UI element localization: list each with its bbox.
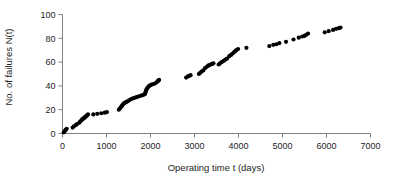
x-axis-tick-label: 0 bbox=[60, 141, 65, 151]
data-point bbox=[244, 46, 248, 50]
data-point bbox=[105, 110, 109, 114]
x-axis-tick-label: 7000 bbox=[360, 141, 380, 151]
data-series-cumulative-failures bbox=[62, 25, 343, 134]
x-axis-tick-label: 5000 bbox=[272, 141, 292, 151]
data-point bbox=[338, 25, 342, 29]
data-point bbox=[267, 44, 271, 48]
data-point bbox=[95, 112, 99, 116]
x-axis-tick-label: 3000 bbox=[184, 141, 204, 151]
data-point bbox=[323, 30, 327, 34]
x-axis-tick-label: 4000 bbox=[228, 141, 248, 151]
data-point bbox=[65, 127, 69, 131]
data-point bbox=[211, 61, 215, 65]
data-point bbox=[91, 112, 95, 116]
data-point bbox=[291, 37, 295, 41]
y-axis-label: No. of failures N(t) bbox=[2, 2, 16, 132]
data-point bbox=[327, 29, 331, 33]
x-axis-tick-label: 6000 bbox=[316, 141, 336, 151]
y-axis-tick-label: 80 bbox=[45, 34, 55, 44]
y-axis-tick-label: 60 bbox=[45, 57, 55, 67]
y-axis-label-text: No. of failures N(t) bbox=[2, 2, 16, 132]
data-point bbox=[284, 40, 288, 44]
data-point bbox=[157, 78, 161, 82]
data-point bbox=[236, 47, 240, 51]
data-point bbox=[277, 41, 281, 45]
y-axis-tick-label: 20 bbox=[45, 105, 55, 115]
x-axis-label: Operating time t (days) bbox=[62, 162, 370, 173]
failure-count-scatter-chart: No. of failures N(t) Operating time t (d… bbox=[0, 0, 412, 184]
x-axis-tick-label: 1000 bbox=[96, 141, 116, 151]
y-axis-tick-label: 40 bbox=[45, 81, 55, 91]
data-point bbox=[188, 73, 192, 77]
plot-area: 0100020003000400050006000700002040608010… bbox=[0, 0, 412, 184]
data-point bbox=[86, 112, 90, 116]
data-point bbox=[99, 111, 103, 115]
y-axis-tick-label: 100 bbox=[40, 10, 55, 20]
x-axis-tick-label: 2000 bbox=[140, 141, 160, 151]
data-point bbox=[306, 31, 310, 35]
y-axis-tick-label: 0 bbox=[50, 129, 55, 139]
